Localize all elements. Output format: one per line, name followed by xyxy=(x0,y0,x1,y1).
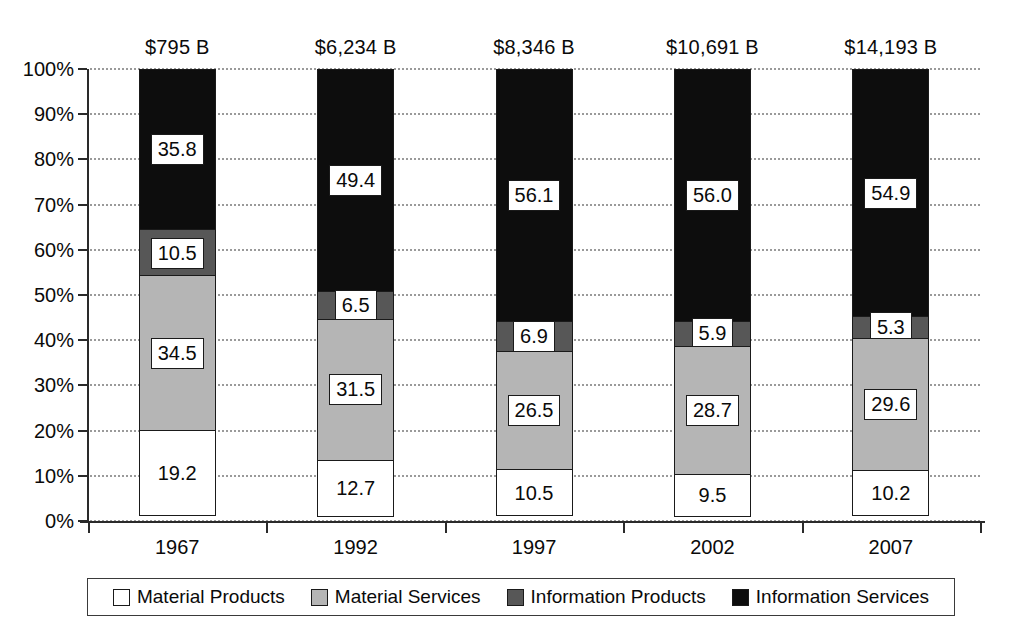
stacked-bar[interactable]: 54.95.329.610.2 xyxy=(852,69,929,521)
legend-item-label: Material Services xyxy=(335,586,481,608)
column-total: $8,346 B xyxy=(445,30,623,64)
bar-segment[interactable]: 10.5 xyxy=(496,469,573,516)
legend-item[interactable]: Material Services xyxy=(311,586,481,608)
segment-value-label: 6.9 xyxy=(513,321,555,352)
y-axis-tick-label: 20% xyxy=(34,419,74,442)
stacked-bar[interactable]: 35.810.534.519.2 xyxy=(139,69,216,521)
bar-segment[interactable]: 34.5 xyxy=(139,275,216,431)
legend-item[interactable]: Information Products xyxy=(507,586,706,608)
y-axis-tick-label: 60% xyxy=(34,238,74,261)
segment-value-label: 6.5 xyxy=(335,290,377,321)
bar-segment[interactable]: 56.0 xyxy=(674,69,751,322)
bar-segment[interactable]: 5.3 xyxy=(852,316,929,340)
segment-value-label: 54.9 xyxy=(864,178,917,209)
y-axis-tick-mark xyxy=(78,339,87,341)
y-axis-tick-mark xyxy=(78,475,87,477)
bar-segment[interactable]: 35.8 xyxy=(139,69,216,231)
x-axis-tick-mark xyxy=(980,521,982,533)
column-total: $10,691 B xyxy=(623,30,801,64)
segment-value-label: 28.7 xyxy=(686,395,739,426)
y-axis-tick-mark xyxy=(78,249,87,251)
bar-segment[interactable]: 28.7 xyxy=(674,346,751,476)
bar-segment[interactable]: 6.5 xyxy=(317,291,394,320)
x-axis-category-labels: 19671992199720022007 xyxy=(88,536,980,566)
x-axis-tick-mark xyxy=(88,521,90,533)
segment-value-label: 10.5 xyxy=(515,483,554,503)
x-axis-category-label: 2007 xyxy=(802,536,980,566)
x-axis-tick-mark xyxy=(266,521,268,533)
stacked-bar[interactable]: 56.05.928.79.5 xyxy=(674,69,751,521)
y-axis-tick-label: 10% xyxy=(34,464,74,487)
x-axis-tick-mark xyxy=(445,521,447,533)
bar-segment[interactable]: 31.5 xyxy=(317,319,394,461)
legend-item-label: Information Services xyxy=(756,586,929,608)
bar-segment[interactable]: 6.9 xyxy=(496,321,573,352)
bar-segment[interactable]: 9.5 xyxy=(674,474,751,517)
segment-value-label: 35.8 xyxy=(151,134,204,165)
bar-segment[interactable]: 12.7 xyxy=(317,460,394,517)
legend-item[interactable]: Material Products xyxy=(113,586,285,608)
segment-value-label: 10.2 xyxy=(871,483,910,503)
x-axis-category-label: 1967 xyxy=(88,536,266,566)
y-axis-tick-label: 90% xyxy=(34,103,74,126)
column-total: $795 B xyxy=(88,30,266,64)
plot-area: 35.810.534.519.249.46.531.512.756.16.926… xyxy=(88,69,980,521)
bar-slot: 54.95.329.610.2 xyxy=(802,69,980,521)
y-axis-tick-label: 50% xyxy=(34,284,74,307)
column-total: $14,193 B xyxy=(802,30,980,64)
legend-swatch-information-services xyxy=(732,589,749,606)
bar-segment[interactable]: 29.6 xyxy=(852,338,929,472)
segment-value-label: 9.5 xyxy=(699,485,727,505)
bar-segment[interactable]: 5.9 xyxy=(674,321,751,348)
legend-item-label: Information Products xyxy=(531,586,706,608)
y-axis-tick-mark xyxy=(78,158,87,160)
y-axis-tick-label: 40% xyxy=(34,329,74,352)
bar-slot: 35.810.534.519.2 xyxy=(88,69,266,521)
legend-item-label: Material Products xyxy=(137,586,285,608)
bar-segment[interactable]: 54.9 xyxy=(852,69,929,317)
segment-value-label: 29.6 xyxy=(864,389,917,420)
x-axis-tick-mark xyxy=(802,521,804,533)
y-axis-tick-label: 30% xyxy=(34,374,74,397)
x-axis-category-label: 1997 xyxy=(445,536,623,566)
segment-value-label: 19.2 xyxy=(158,463,197,483)
stacked-bar-chart: $795 B$6,234 B$8,346 B$10,691 B$14,193 B… xyxy=(0,0,1012,643)
y-axis-tick-label: 0% xyxy=(45,510,74,533)
column-totals-row: $795 B$6,234 B$8,346 B$10,691 B$14,193 B xyxy=(88,30,980,64)
x-axis-category-label: 1992 xyxy=(266,536,444,566)
legend-item[interactable]: Information Services xyxy=(732,586,929,608)
y-axis-tick-mark xyxy=(78,430,87,432)
segment-value-label: 12.7 xyxy=(336,478,375,498)
bar-slot: 56.05.928.79.5 xyxy=(623,69,801,521)
y-axis-tick-mark xyxy=(78,294,87,296)
y-axis-tick-mark xyxy=(78,68,87,70)
x-axis-tick-mark xyxy=(623,521,625,533)
stacked-bar[interactable]: 56.16.926.510.5 xyxy=(496,69,573,521)
y-axis-tick-label: 70% xyxy=(34,193,74,216)
bar-segment[interactable]: 49.4 xyxy=(317,69,394,292)
segment-value-label: 56.0 xyxy=(686,180,739,211)
x-axis-ticks xyxy=(88,521,980,535)
y-axis-tick-label: 80% xyxy=(34,148,74,171)
bar-segment[interactable]: 56.1 xyxy=(496,69,573,323)
y-axis-tick-mark xyxy=(78,384,87,386)
segment-value-label: 10.5 xyxy=(151,238,204,269)
bar-segment[interactable]: 19.2 xyxy=(139,430,216,517)
segment-value-label: 34.5 xyxy=(151,338,204,369)
segment-value-label: 49.4 xyxy=(329,165,382,196)
stacked-bar[interactable]: 49.46.531.512.7 xyxy=(317,69,394,521)
legend-swatch-material-services xyxy=(311,589,328,606)
bar-slot: 56.16.926.510.5 xyxy=(445,69,623,521)
column-total: $6,234 B xyxy=(266,30,444,64)
y-axis-tick-label: 100% xyxy=(23,58,74,81)
chart-legend: Material ProductsMaterial ServicesInform… xyxy=(87,578,955,616)
segment-value-label: 56.1 xyxy=(508,180,561,211)
y-axis-tick-mark xyxy=(78,113,87,115)
y-axis: 0%10%20%30%40%50%60%70%80%90%100% xyxy=(0,69,88,521)
segment-value-label: 26.5 xyxy=(508,395,561,426)
bar-segment[interactable]: 10.5 xyxy=(139,229,216,276)
bar-slot: 49.46.531.512.7 xyxy=(266,69,444,521)
x-axis-category-label: 2002 xyxy=(623,536,801,566)
bar-segment[interactable]: 10.2 xyxy=(852,470,929,516)
bar-segment[interactable]: 26.5 xyxy=(496,351,573,471)
